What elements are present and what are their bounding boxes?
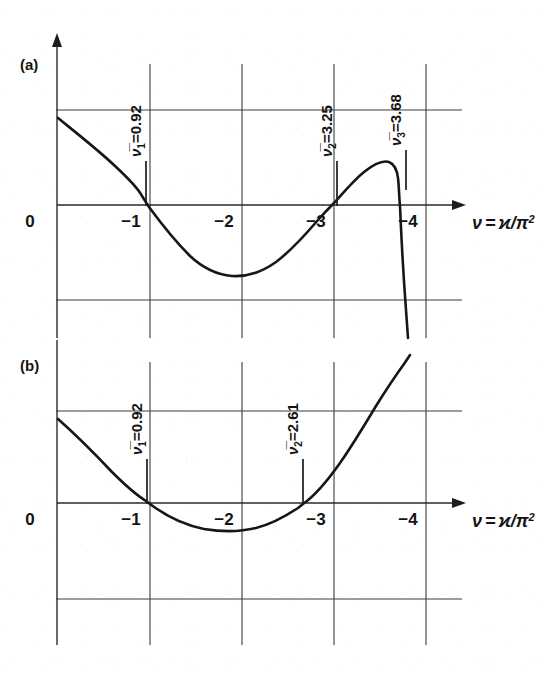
panel-b: ν̅1=0.92 ν̅2=2.61 0 −1 −2 −3 −4 ν=ϰ/	[20, 340, 535, 645]
svg-text:ν̅2=3.25: ν̅2=3.25	[318, 105, 338, 157]
axis-title-equals: =	[485, 511, 496, 531]
panel-a-vertical-gridlines	[150, 64, 426, 338]
x-tick-label-0: 0	[25, 212, 34, 231]
figure-svg: ν̅1=0.92 ν̅2=3.25 ν̅3=3.68 0 −1	[0, 0, 550, 677]
x-axis-title-b: ν=ϰ/π2	[472, 511, 535, 531]
marker-equals: =	[318, 134, 335, 143]
x-axis-arrowhead	[452, 498, 466, 508]
svg-text:ν̅1=0.92: ν̅1=0.92	[127, 105, 147, 157]
marker-equals: =	[284, 432, 301, 441]
x-axis-arrowhead	[452, 200, 466, 210]
panel-b-markers	[147, 459, 303, 504]
marker-value: 0.92	[127, 105, 144, 134]
marker-value: 3.25	[318, 105, 335, 134]
x-tick-label-minus4: −4	[398, 510, 418, 529]
marker-equals: =	[127, 134, 144, 143]
marker-value: 2.61	[284, 403, 301, 432]
axis-title-kappa: ϰ	[498, 511, 512, 531]
panel-label-b: (b)	[20, 357, 39, 374]
panel-a-y-axis	[52, 33, 62, 338]
x-tick-label-minus3: −3	[306, 510, 325, 529]
marker-equals: =	[128, 432, 145, 441]
svg-text:ν̅3=3.68: ν̅3=3.68	[387, 94, 407, 146]
marker-label-nu-bar-3: ν̅3=3.68	[387, 94, 407, 146]
x-tick-label-minus2: −2	[214, 510, 233, 529]
marker-value: 3.68	[387, 94, 404, 123]
panel-a-marker-labels: ν̅1=0.92 ν̅2=3.25 ν̅3=3.68	[127, 94, 407, 157]
x-tick-label-minus1: −1	[121, 212, 140, 231]
marker-value: 0.92	[128, 403, 145, 432]
axis-title-kappa: ϰ	[498, 213, 512, 233]
panel-b-x-tick-labels: 0 −1 −2 −3 −4	[25, 510, 418, 529]
panel-b-x-axis	[57, 498, 466, 508]
axis-title-exponent: 2	[528, 213, 535, 225]
axis-title-var: ν	[472, 511, 482, 531]
x-tick-label-0: 0	[25, 510, 34, 529]
y-axis-arrowhead	[52, 33, 62, 47]
x-tick-label-minus3: −3	[306, 212, 325, 231]
axis-title-pi: π	[516, 511, 529, 531]
marker-label-nu-bar-1: ν̅1=0.92	[127, 105, 147, 157]
axis-title-var: ν	[472, 213, 482, 233]
x-axis-title-a: ν=ϰ/π2	[472, 213, 535, 233]
marker-label-nu-bar-2: ν̅2=3.25	[318, 105, 338, 157]
x-tick-label-minus2: −2	[214, 212, 233, 231]
x-tick-label-minus4: −4	[398, 212, 418, 231]
axis-title-pi: π	[516, 213, 529, 233]
curve-b	[58, 355, 410, 531]
axis-title-equals: =	[485, 213, 496, 233]
panel-b-horizontal-gridlines	[56, 411, 462, 599]
marker-equals: =	[387, 123, 404, 132]
panel-a: ν̅1=0.92 ν̅2=3.25 ν̅3=3.68 0 −1	[20, 33, 535, 338]
figure-container: ν̅1=0.92 ν̅2=3.25 ν̅3=3.68 0 −1	[0, 0, 550, 677]
x-tick-label-minus1: −1	[121, 510, 140, 529]
panel-label-a: (a)	[20, 56, 38, 73]
panel-a-x-tick-labels: 0 −1 −2 −3 −4	[25, 212, 418, 231]
panel-a-x-axis	[57, 200, 466, 210]
panel-a-markers	[146, 150, 406, 206]
axis-title-exponent: 2	[528, 511, 535, 523]
